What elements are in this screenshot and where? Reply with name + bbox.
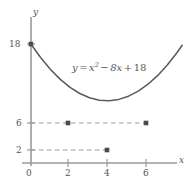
equation-constant: 18 [134,62,147,73]
x-tick-label-0: 0 [26,169,32,178]
equation-annotation: y=x2−8x+18 [72,62,146,73]
parabola-figure: y=x2−8x+18 y x 18 6 2 0 2 4 6 [0,0,195,192]
point-marker-2-6 [66,121,71,126]
point-marker-6-6 [144,121,149,126]
equation-plus: + [122,62,133,73]
x-tick-label-6: 6 [143,169,149,178]
y-tick-label-18: 18 [9,40,20,49]
y-tick-label-2: 2 [16,146,22,155]
point-marker-4-2 [105,148,110,153]
y-tick-label-6: 6 [16,119,22,128]
equation-lhs: y [72,62,78,73]
point-marker-0-18 [29,42,34,47]
equation-equals: = [78,62,89,73]
plot-canvas [0,0,195,192]
equation-minus: − [99,62,110,73]
y-axis-label: y [33,8,38,17]
x-tick-label-2: 2 [65,169,71,178]
x-axis-label: x [179,156,184,165]
x-tick-label-4: 4 [104,169,110,178]
equation-term2: 8x [110,62,122,73]
